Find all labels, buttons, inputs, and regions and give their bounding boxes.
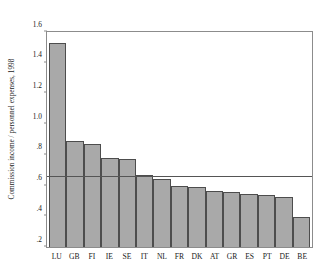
bar-slot-at [206, 32, 223, 247]
x-axis-label-pt: PT [258, 252, 276, 262]
chart-figure: Commission income / personnel expenses, … [0, 0, 328, 280]
y-axis-tick-label: 1.0 [33, 113, 47, 120]
y-axis-tick-label: 1.6 [33, 21, 47, 28]
bar-slot-de [275, 32, 292, 247]
y-axis-tick-label: 1.2 [33, 82, 47, 89]
y-axis-tick-label: .8 [36, 144, 47, 151]
x-axis-label-fi: FI [83, 252, 101, 262]
bar-dk [188, 187, 205, 247]
bar-gb [66, 141, 83, 247]
x-axis-label-es: ES [241, 252, 259, 262]
x-axis-label-nl: NL [153, 252, 171, 262]
x-axis-label-gr: GR [223, 252, 241, 262]
bar-slot-gr [223, 32, 240, 247]
bar-series [47, 32, 312, 247]
y-axis-title: Commission income / personnel expenses, … [6, 9, 18, 249]
x-axis-label-gb: GB [66, 252, 84, 262]
x-axis-label-be: BE [293, 252, 311, 262]
x-axis-label-lu: LU [48, 252, 66, 262]
bar-it [136, 175, 153, 247]
plot-area: 1.61.41.21.0.8.6.4.2 [46, 31, 313, 248]
bar-de [275, 197, 292, 247]
x-axis-tick-labels: LUGBFIIESEITNLFRDKATGRESPTDEBE [46, 252, 313, 262]
y-axis-tick-label: .2 [36, 236, 47, 243]
bar-fi [84, 144, 101, 247]
y-axis-tick-label: .4 [36, 205, 47, 212]
bar-slot-fr [171, 32, 188, 247]
x-axis-label-dk: DK [188, 252, 206, 262]
bar-ie [101, 158, 118, 247]
y-axis-tick-label: .6 [36, 174, 47, 181]
bar-slot-nl [153, 32, 170, 247]
y-axis-tick-label: 1.4 [33, 52, 47, 59]
reference-line [47, 176, 312, 177]
bar-slot-it [136, 32, 153, 247]
x-axis-label-ie: IE [101, 252, 119, 262]
bar-at [206, 191, 223, 247]
bar-pt [258, 195, 275, 247]
x-axis-label-de: DE [276, 252, 294, 262]
bar-fr [171, 186, 188, 247]
bar-slot-se [119, 32, 136, 247]
bar-slot-es [240, 32, 257, 247]
x-axis-label-fr: FR [171, 252, 189, 262]
bar-slot-fi [84, 32, 101, 247]
bar-se [119, 159, 136, 247]
bar-slot-lu [49, 32, 66, 247]
bar-slot-ie [101, 32, 118, 247]
bar-lu [49, 43, 66, 247]
x-axis-label-se: SE [118, 252, 136, 262]
bar-slot-be [293, 32, 310, 247]
bar-nl [153, 179, 170, 247]
bar-es [240, 194, 257, 247]
bar-be [293, 217, 310, 247]
bar-slot-gb [66, 32, 83, 247]
bar-slot-pt [258, 32, 275, 247]
bar-gr [223, 192, 240, 247]
x-axis-label-it: IT [136, 252, 154, 262]
x-axis-label-at: AT [206, 252, 224, 262]
bar-slot-dk [188, 32, 205, 247]
